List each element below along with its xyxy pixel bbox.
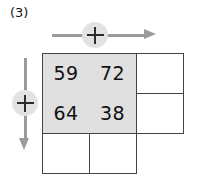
grid-cell-r2c0-answer[interactable] — [42, 133, 90, 174]
grid-cell-r2c2-open — [136, 133, 184, 174]
problem-number-label: (3) — [10, 6, 28, 19]
grid-cell-value: 59 — [53, 64, 78, 83]
grid-cell-value: 72 — [100, 64, 125, 83]
grid-cell-r1c0[interactable]: 64 — [42, 93, 90, 134]
row-operation-plus-icon — [82, 22, 108, 48]
number-grid: 59 72 64 38 — [42, 53, 186, 175]
arrow-head — [19, 138, 29, 150]
grid-cell-r0c2-answer[interactable] — [136, 53, 184, 94]
grid-cell-value: 64 — [53, 104, 78, 123]
worksheet-canvas: (3) 59 72 64 38 — [0, 0, 201, 184]
grid-cell-r0c1[interactable]: 72 — [89, 53, 137, 94]
column-operation-plus-icon — [12, 90, 38, 116]
arrow-head — [144, 29, 156, 39]
grid-cell-r0c0[interactable]: 59 — [42, 53, 90, 94]
grid-cell-r2c1-answer[interactable] — [89, 133, 137, 174]
grid-cell-r1c2-answer[interactable] — [136, 93, 184, 134]
grid-cell-value: 38 — [100, 104, 125, 123]
grid-cell-r1c1[interactable]: 38 — [89, 93, 137, 134]
